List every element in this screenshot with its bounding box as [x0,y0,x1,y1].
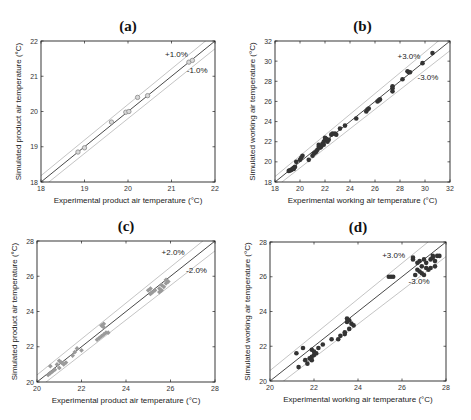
data-point [417,259,422,264]
data-point [291,167,296,172]
data-point [76,150,80,154]
y-tick-label: 22 [30,38,38,45]
x-tick-label: 21 [168,185,176,192]
y-tick-label: 22 [264,138,272,145]
y-tick-label: 20 [26,379,34,386]
x-axis-label: Experimental working air temperature (°C… [288,196,438,205]
x-axis-label: Experimental product air temperature (°C… [52,396,201,405]
data-point [420,61,425,66]
panel-title: (b) [353,18,371,35]
y-axis-label: Simulated product air temperature (°C) [10,242,19,380]
y-tick-label: 30 [264,58,272,65]
y-tick-label: 22 [26,343,34,350]
x-axis-label: Experimental product air temperature (°C… [54,196,203,205]
y-tick-label: 28 [259,239,267,246]
y-tick-label: 24 [259,308,267,315]
y-tick-label: 24 [264,118,272,125]
x-tick-label: 20 [266,384,274,391]
y-tick-label: 21 [30,73,38,80]
panel-d: (d)20222426282022242628Experimental work… [243,219,450,404]
x-tick-label: 32 [446,185,454,192]
y-tick-label: 20 [259,378,267,385]
y-tick-label: 24 [26,308,34,315]
y-tick-label: 32 [264,38,272,45]
panel-a: (a)18192021221819202122Experimental prod… [14,18,219,205]
data-point [420,264,425,269]
data-point [300,154,305,159]
upper-band-line [270,227,446,370]
x-tick-label: 22 [211,185,219,192]
data-point [48,364,53,369]
data-point [321,142,326,147]
x-tick-label: 26 [371,185,379,192]
data-point [321,342,326,347]
data-point [316,346,321,351]
x-tick-label: 22 [78,385,86,392]
x-tick-label: 28 [442,384,450,391]
y-tick-label: 22 [259,343,267,350]
x-tick-label: 24 [122,385,130,392]
data-point [437,254,442,259]
panel-c: (c)20222426282022242628Experimental prod… [10,218,219,405]
identity-line [37,241,215,382]
data-points [46,277,171,377]
data-point [296,365,301,370]
y-tick-label: 28 [26,238,34,245]
x-axis-label: Experimental working air temperature (°C… [283,395,433,404]
data-point [294,351,299,356]
data-point [135,95,139,99]
reference-lines [275,31,450,187]
upper-band-label: +3.0% [382,251,405,260]
data-point [305,361,310,366]
y-axis-label: Simulated product air temperature (°C) [14,42,23,180]
upper-band-label: +3.0% [398,52,421,61]
y-tick-label: 28 [264,78,272,85]
y-tick-label: 20 [264,158,272,165]
data-point [347,327,352,332]
x-tick-label: 19 [81,185,89,192]
data-point [314,351,319,356]
upper-band-label: +2.0% [162,248,185,257]
data-point [82,146,86,150]
y-tick-label: 18 [264,179,272,186]
upper-band-line [41,33,215,175]
x-tick-label: 18 [271,185,279,192]
data-point [190,58,194,62]
data-point [430,51,435,56]
x-tick-label: 24 [346,185,354,192]
data-point [433,259,438,264]
upper-band-line [37,231,215,375]
data-point [378,97,383,102]
y-tick-label: 26 [264,98,272,105]
lower-band-line [275,51,450,188]
lower-band-label: -3.0% [409,277,430,286]
x-tick-label: 20 [33,385,41,392]
data-point [390,84,395,89]
panel-title: (c) [118,218,135,235]
data-point [366,106,371,111]
x-tick-label: 28 [211,385,219,392]
x-tick-label: 24 [354,384,362,391]
data-point [354,116,359,121]
data-point [310,358,315,363]
data-point [343,123,348,128]
x-tick-label: 28 [396,185,404,192]
upper-band-label: +1.0% [165,50,188,59]
data-point [400,77,405,82]
data-point [310,347,315,352]
figure-canvas: (a)18192021221819202122Experimental prod… [0,0,471,420]
x-tick-label: 26 [398,384,406,391]
panel-title: (d) [349,219,367,236]
lower-band-label: -1.0% [187,66,208,75]
x-tick-label: 22 [321,185,329,192]
data-points [294,254,442,370]
data-point [109,120,113,124]
data-point [408,70,413,75]
x-tick-label: 22 [310,384,318,391]
x-tick-label: 26 [167,385,175,392]
data-point [329,337,334,342]
data-point [351,323,356,328]
x-tick-label: 30 [421,185,429,192]
data-point [338,334,343,339]
data-point [431,254,436,259]
